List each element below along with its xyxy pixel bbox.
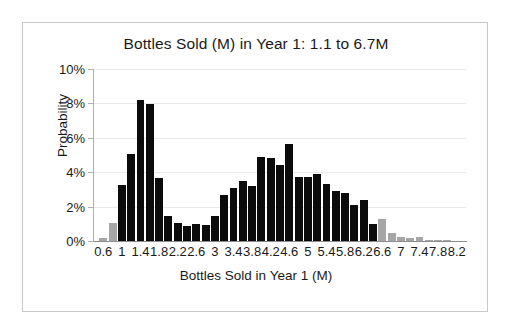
chart-title: Bottles Sold (M) in Year 1: 1.1 to 6.7M: [23, 35, 489, 53]
y-axis-tick-mark: [88, 241, 93, 242]
histogram-bar: [137, 100, 145, 241]
histogram-bar: [211, 216, 219, 241]
histogram-bar: [239, 181, 247, 241]
y-axis-tick-label: 0%: [45, 234, 85, 249]
x-axis-tick-label: 7.4: [410, 244, 428, 259]
x-axis-tick-label: 3.4: [224, 244, 242, 259]
histogram-bar: [388, 233, 396, 241]
histogram-bar: [146, 104, 154, 241]
x-axis-tick-label: 8.2: [448, 244, 466, 259]
x-axis-tick-label: 6.2: [355, 244, 373, 259]
histogram-bar: [443, 240, 451, 241]
histogram-bar: [248, 186, 256, 241]
histogram-bar: [360, 200, 368, 241]
x-axis-tick-label: 4.6: [280, 244, 298, 259]
histogram-bar: [230, 188, 238, 241]
y-axis-tick-mark: [88, 69, 93, 70]
histogram-bar: [295, 177, 303, 242]
histogram-bar: [416, 237, 424, 241]
histogram-bar: [220, 195, 228, 241]
y-axis-tick-label: 2%: [45, 199, 85, 214]
x-axis-tick-label: 1.4: [131, 244, 149, 259]
x-axis-tick-label: 0.6: [94, 244, 112, 259]
gridline: [94, 69, 466, 70]
x-axis-tick-label: 2.6: [187, 244, 205, 259]
histogram-bar: [164, 216, 172, 241]
histogram-bar: [378, 219, 386, 241]
histogram-bar: [192, 224, 200, 241]
x-axis-tick-label: 5: [304, 244, 311, 259]
histogram-bar: [304, 177, 312, 242]
y-axis-tick-mark: [88, 172, 93, 173]
x-axis-line: [94, 241, 467, 242]
y-axis-tick-mark: [88, 138, 93, 139]
histogram-bar: [350, 205, 358, 241]
histogram-bar: [257, 157, 265, 241]
plot-area: [94, 69, 466, 241]
x-axis-tick-label: 7: [397, 244, 404, 259]
chart-frame: Bottles Sold (M) in Year 1: 1.1 to 6.7M …: [22, 22, 488, 312]
y-axis-title: Probability: [55, 81, 70, 171]
histogram-bar: [99, 238, 107, 241]
x-axis-tick-label: 3.8: [243, 244, 261, 259]
histogram-bar: [313, 174, 321, 241]
x-axis-tick-label: 4.2: [262, 244, 280, 259]
histogram-bar: [174, 223, 182, 241]
histogram-bar: [109, 223, 117, 241]
histogram-bar: [118, 185, 126, 241]
histogram-bar: [434, 240, 442, 241]
histogram-bar: [425, 240, 433, 241]
histogram-bar: [332, 191, 340, 241]
x-axis-tick-label: 1.8: [150, 244, 168, 259]
x-axis-tick-label: 5.8: [336, 244, 354, 259]
chart-screenshot: Bottles Sold (M) in Year 1: 1.1 to 6.7M …: [0, 0, 510, 332]
x-axis-tick-label: 6.6: [373, 244, 391, 259]
x-axis-tick-label: 1: [118, 244, 125, 259]
y-axis-tick-label: 10%: [45, 62, 85, 77]
histogram-bar: [183, 226, 191, 241]
histogram-bar: [341, 193, 349, 241]
x-axis-tick-labels: 0.611.41.82.22.633.43.84.24.655.45.86.26…: [94, 244, 466, 264]
x-axis-tick-label: 5.4: [317, 244, 335, 259]
histogram-bar: [155, 178, 163, 241]
histogram-bar: [276, 165, 284, 241]
histogram-bar: [127, 154, 135, 241]
x-axis-tick-label: 3: [211, 244, 218, 259]
y-axis-tick-mark: [88, 207, 93, 208]
histogram-bar: [202, 225, 210, 241]
histogram-bar: [406, 238, 414, 241]
histogram-bar: [397, 237, 405, 241]
x-axis-title: Bottles Sold in Year 1 (M): [23, 268, 489, 283]
histogram-bar: [285, 144, 293, 241]
x-axis-tick-label: 2.2: [169, 244, 187, 259]
histogram-bar: [323, 184, 331, 241]
y-axis-tick-mark: [88, 103, 93, 104]
histogram-bar: [267, 158, 275, 241]
x-axis-tick-label: 7.8: [429, 244, 447, 259]
histogram-bar: [369, 224, 377, 241]
